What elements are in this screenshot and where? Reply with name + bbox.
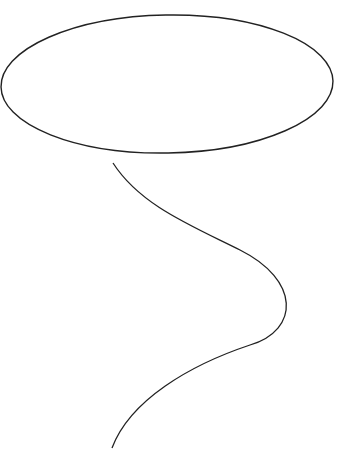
drawing-canvas: Hand-drawn balloon: ellipse with a wavy … [0,0,340,460]
balloon-ellipse [0,12,334,156]
drawing-svg [0,0,340,460]
balloon-string [112,163,286,448]
